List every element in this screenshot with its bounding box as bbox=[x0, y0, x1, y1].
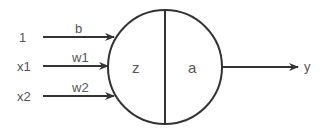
neuron-label-z: z bbox=[132, 61, 140, 74]
neuron-label-a: a bbox=[188, 61, 196, 74]
input-label-1: 1 bbox=[19, 31, 26, 44]
neuron-diagram-canvas bbox=[0, 0, 323, 133]
input-label-x1: x1 bbox=[17, 60, 31, 73]
weight-label-w2: w2 bbox=[72, 81, 89, 94]
weight-label-b: b bbox=[75, 22, 82, 35]
output-label-y: y bbox=[304, 60, 311, 73]
weight-label-w1: w1 bbox=[72, 51, 89, 64]
input-label-x2: x2 bbox=[17, 90, 31, 103]
